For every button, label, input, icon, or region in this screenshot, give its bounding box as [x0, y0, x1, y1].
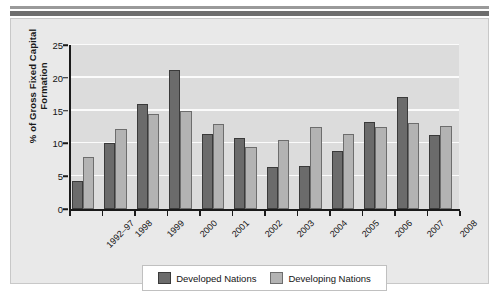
legend-swatch-icon-developed: [158, 272, 171, 284]
gridline: [69, 76, 459, 78]
chart-legend: Developed Nations Developing Nations: [142, 265, 387, 291]
x-tick-label: 2001: [230, 218, 251, 239]
bar-developing: [310, 127, 321, 209]
bar-developing: [245, 147, 256, 209]
y-tick-mark: [63, 208, 68, 210]
bar-developed: [72, 181, 83, 209]
x-tick-label: 1998: [133, 218, 154, 239]
bar-developed: [104, 143, 115, 209]
bar-developed: [169, 70, 180, 209]
top-rule-thin: [10, 6, 489, 9]
bar-developing: [375, 127, 386, 209]
x-tick-mark: [167, 211, 169, 216]
bar-developing: [148, 114, 159, 209]
y-tick-mark: [63, 143, 68, 145]
chart-figure: % of Gross Fixed Capital Formation 05101…: [0, 0, 499, 294]
x-tick-mark: [362, 211, 364, 216]
x-tick-label: 2002: [263, 218, 284, 239]
y-axis-line: [69, 45, 71, 210]
y-tick-mark: [63, 110, 68, 112]
x-tick-label: 2006: [393, 218, 414, 239]
plot-area: [69, 45, 459, 209]
bar-developed: [397, 97, 408, 209]
bar-developing: [213, 124, 224, 209]
bar-developing: [83, 157, 94, 209]
x-tick-label: 2004: [328, 218, 349, 239]
bar-developing: [408, 123, 419, 209]
x-tick-mark: [329, 211, 331, 216]
x-tick-label: 2007: [425, 218, 446, 239]
y-tick-mark: [63, 77, 68, 79]
x-tick-mark: [297, 211, 299, 216]
bar-developing: [278, 140, 289, 209]
bar-developed: [364, 122, 375, 209]
x-tick-mark: [232, 211, 234, 216]
bar-developed: [332, 151, 343, 209]
bar-developed: [234, 138, 245, 210]
x-tick-mark: [134, 211, 136, 216]
y-tick-label: 10: [43, 138, 63, 149]
x-tick-label: 1992–97: [105, 218, 137, 250]
gridline: [69, 44, 459, 46]
x-tick-mark: [199, 211, 201, 216]
x-tick-mark: [69, 211, 71, 216]
bar-developed: [299, 166, 310, 209]
legend-entry-developed[interactable]: Developed Nations: [158, 272, 256, 284]
y-tick-mark: [63, 44, 68, 46]
chart-panel: % of Gross Fixed Capital Formation 05101…: [10, 18, 489, 284]
legend-label-developing: Developing Nations: [288, 273, 370, 284]
top-rule-thick: [10, 11, 489, 16]
legend-label-developed: Developed Nations: [176, 273, 256, 284]
bar-developed: [267, 167, 278, 209]
bar-developed: [137, 104, 148, 209]
y-tick-mark: [63, 175, 68, 177]
y-tick-label: 15: [43, 105, 63, 116]
bar-developing: [180, 111, 191, 209]
y-axis-ticks: 0510152025: [37, 45, 63, 209]
legend-swatch-icon-developing: [270, 272, 283, 284]
y-tick-label: 5: [43, 171, 63, 182]
bar-developing: [115, 129, 126, 209]
legend-entry-developing[interactable]: Developing Nations: [270, 272, 370, 284]
x-tick-mark: [394, 211, 396, 216]
y-tick-label: 20: [43, 72, 63, 83]
x-tick-label: 2003: [295, 218, 316, 239]
bar-developing: [440, 126, 451, 209]
x-tick-mark: [459, 211, 461, 216]
x-tick-mark: [264, 211, 266, 216]
x-tick-label: 1999: [165, 218, 186, 239]
bar-developed: [202, 134, 213, 209]
x-tick-mark: [102, 211, 104, 216]
y-tick-label: 0: [43, 204, 63, 215]
x-tick-label: 2000: [198, 218, 219, 239]
x-tick-mark: [427, 211, 429, 216]
y-tick-label: 25: [43, 40, 63, 51]
x-tick-label: 2005: [360, 218, 381, 239]
bar-developing: [343, 134, 354, 209]
bar-developed: [429, 135, 440, 209]
x-tick-label: 2008: [458, 218, 479, 239]
